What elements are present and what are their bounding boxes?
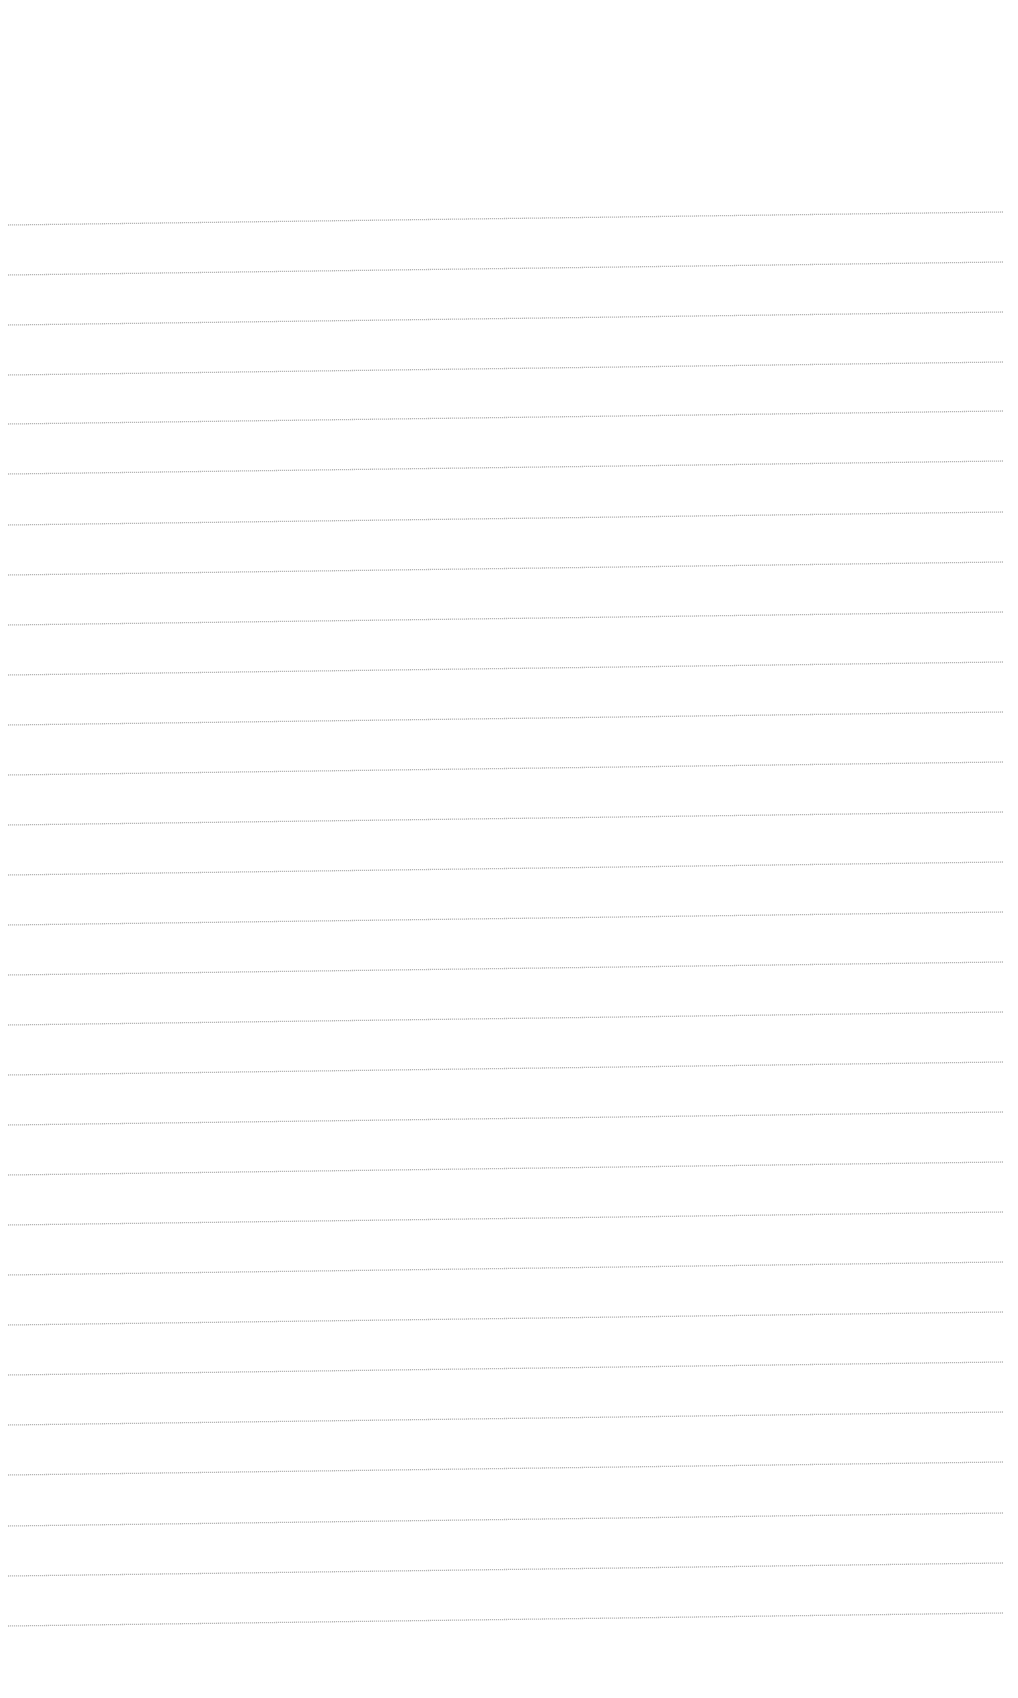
ruled-line	[8, 461, 1003, 474]
ruled-line	[8, 212, 1003, 225]
ruled-line	[8, 312, 1003, 325]
ruled-line	[8, 712, 1003, 725]
ruled-line	[8, 1212, 1003, 1225]
ruled-line	[8, 1563, 1003, 1576]
ruled-line	[8, 1362, 1003, 1375]
ruled-line	[8, 862, 1003, 875]
ruled-line	[8, 1312, 1003, 1325]
ruled-line	[8, 962, 1003, 975]
ruled-line	[8, 262, 1003, 275]
ruled-line	[8, 1613, 1003, 1626]
ruled-line	[8, 1462, 1003, 1475]
ruled-line	[8, 762, 1003, 775]
ruled-line	[8, 662, 1003, 675]
ruled-line	[8, 1162, 1003, 1175]
ruled-line	[8, 1012, 1003, 1025]
ruled-line	[8, 912, 1003, 925]
ruled-line	[8, 612, 1003, 625]
ruled-line	[8, 1513, 1003, 1526]
ruled-line	[8, 512, 1003, 525]
lined-paper-sheet	[0, 0, 1018, 1698]
ruled-line	[8, 812, 1003, 825]
ruled-line	[8, 362, 1003, 375]
ruled-line	[8, 562, 1003, 575]
ruled-line	[8, 1062, 1003, 1075]
ruled-line	[8, 411, 1003, 424]
ruled-line	[8, 1112, 1003, 1125]
ruled-line	[8, 1262, 1003, 1275]
ruled-lines	[0, 0, 1018, 1698]
ruled-line	[8, 1412, 1003, 1425]
